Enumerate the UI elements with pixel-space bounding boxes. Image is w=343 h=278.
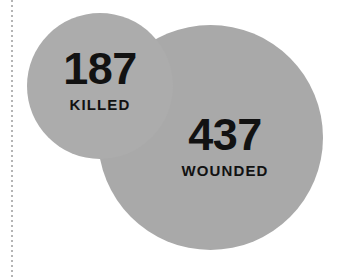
label-group-wounded: 437 WOUNDED: [155, 112, 295, 178]
label-group-killed: 187 KILLED: [27, 46, 173, 112]
dotted-gutter-rule: [11, 0, 13, 278]
casualties-infographic: 187 KILLED 437 WOUNDED: [0, 0, 343, 278]
wounded-value: 437: [155, 112, 295, 157]
killed-value: 187: [27, 46, 173, 91]
wounded-caption: WOUNDED: [155, 163, 295, 178]
killed-caption: KILLED: [27, 97, 173, 112]
